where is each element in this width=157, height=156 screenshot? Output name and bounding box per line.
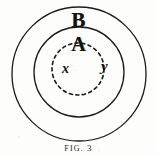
point-label-y: y <box>101 59 108 74</box>
figure-caption-number: 3 <box>87 143 93 153</box>
figure-caption-label: Fig. <box>64 144 83 153</box>
figure-container: B A x y Fig. 3 <box>0 0 157 156</box>
region-label-a: A <box>0 34 157 54</box>
point-label-x: x <box>62 62 69 76</box>
figure-caption: Fig. 3 <box>0 143 157 153</box>
region-label-b: B <box>0 10 157 31</box>
